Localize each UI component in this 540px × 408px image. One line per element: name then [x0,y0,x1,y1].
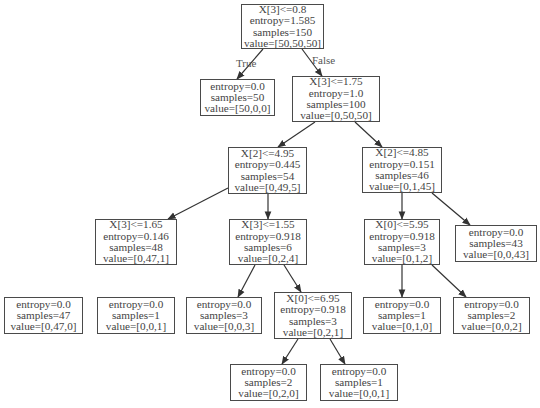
node-line: value=[50,50,50] [244,38,321,49]
split-node: X[3]<=1.75entropy=1.0samples=100value=[0… [292,76,380,122]
leaf-node: entropy=0.0samples=3value=[0,0,3] [186,297,262,334]
split-node: X[0]<=6.95entropy=0.918samples=3value=[0… [274,292,352,339]
node-line: value=[0,47,1] [103,253,169,264]
node-line: X[3]<=1.75 [309,76,362,87]
split-node: X[3]<=1.55entropy=0.918samples=6value=[0… [229,219,307,265]
node-line: value=[0,0,1] [329,388,389,399]
tree-edge [355,122,382,147]
node-line: entropy=0.918 [280,304,346,315]
node-line: entropy=1.585 [250,15,316,26]
node-line: X[3]<=1.55 [241,219,294,230]
node-line: X[2]<=4.85 [375,147,428,158]
node-line: value=[0,47,0] [11,321,77,332]
leaf-node: entropy=0.0samples=1value=[0,0,1] [97,297,175,334]
node-line: value=[0,2,4] [238,253,298,264]
tree-edge [278,122,315,147]
node-line: value=[0,1,0] [372,321,432,332]
tree-edge [284,265,301,292]
tree-edge [238,265,255,297]
node-line: value=[0,2,0] [238,388,298,399]
edge-label-false: False [312,54,335,66]
tree-edges [0,0,540,408]
tree-edge [168,188,228,219]
node-line: value=[0,0,43] [463,249,529,260]
node-line: value=[0,50,50] [300,110,372,121]
tree-edge [330,339,345,364]
node-line: entropy=0.445 [235,159,301,170]
split-node: X[0]<=5.95entropy=0.918samples=3value=[0… [364,219,440,265]
split-node: X[3]<=1.65entropy=0.146samples=48value=[… [95,219,177,265]
node-line: value=[50,0,0] [205,103,271,114]
split-node: X[3]<=0.8entropy=1.585samples=150value=[… [241,4,324,49]
node-line: X[0]<=5.95 [375,219,428,230]
leaf-node: entropy=0.0samples=1value=[0,0,1] [320,364,398,401]
node-line: value=[0,1,45] [369,181,435,192]
node-line: value=[0,49,5] [235,182,301,193]
leaf-node: entropy=0.0samples=47value=[0,47,0] [4,297,83,334]
edge-label-true: True [236,57,256,69]
node-line: value=[0,0,3] [194,321,254,332]
node-line: X[3]<=1.65 [109,219,162,230]
node-line: value=[0,1,2] [372,253,432,264]
node-line: value=[0,0,2] [461,321,521,332]
tree-edge [432,265,466,297]
leaf-node: entropy=0.0samples=2value=[0,0,2] [453,297,530,334]
split-node: X[2]<=4.85entropy=0.151samples=46value=[… [362,147,442,193]
leaf-node: entropy=0.0samples=50value=[50,0,0] [200,79,275,116]
split-node: X[2]<=4.95entropy=0.445samples=54value=[… [228,147,307,194]
leaf-node: entropy=0.0samples=1value=[0,1,0] [363,297,441,334]
leaf-node: entropy=0.0samples=43value=[0,0,43] [455,225,537,262]
tree-edge [282,339,298,364]
node-line: value=[0,0,1] [106,321,166,332]
node-line: value=[0,2,1] [283,327,343,338]
leaf-node: entropy=0.0samples=2value=[0,2,0] [230,364,307,401]
